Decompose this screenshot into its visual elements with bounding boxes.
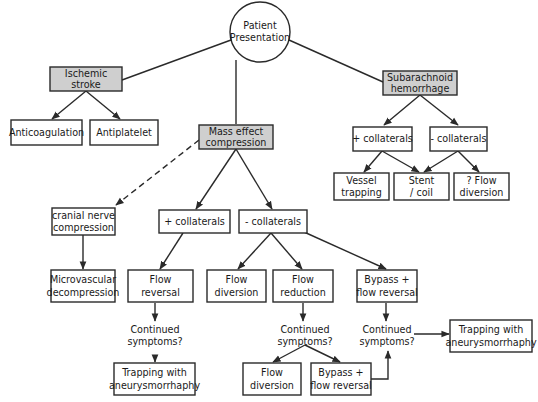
node-label: symptoms? — [359, 336, 414, 347]
node-label: Mass effect — [209, 126, 264, 137]
edge-massminus-bypass — [304, 232, 386, 269]
node-label: + collaterals — [164, 216, 225, 227]
node-microvascular-decompression: Microvascular decompression — [47, 270, 120, 302]
node-label: Ischemic — [65, 68, 107, 79]
node-subarachnoid-hemorrhage: Subarachnoid hemorrhage — [383, 71, 457, 95]
treatment-flowchart: Patient Presentation Ischemic stroke Ant… — [0, 0, 538, 402]
node-label: compression — [206, 137, 267, 148]
node-mass-effect-compression: Mass effect compression — [199, 125, 273, 149]
edge-massplus-flowrev — [160, 233, 183, 269]
edge-mass-minus — [236, 149, 272, 209]
node-label: + collaterals — [352, 133, 413, 144]
node-label: Subarachnoid — [387, 72, 453, 83]
node-label: - collaterals — [245, 216, 301, 227]
node-bypass-flow-reversal-bottom: Bypass + flow reversal — [310, 363, 372, 395]
node-label: / coil — [410, 187, 433, 198]
edge-sahplus-stent — [382, 151, 419, 172]
node-label: aneurysmorrhaphy — [109, 380, 200, 391]
node-bypass-flow-reversal: Bypass + flow reversal — [356, 270, 418, 302]
edge-root-ischemic — [122, 40, 231, 80]
node-label: Vessel — [346, 175, 376, 186]
decision-continued-symptoms-middle: Continued symptoms? — [277, 324, 332, 347]
node-label: diversion — [250, 380, 294, 391]
node-patient-presentation: Patient Presentation — [230, 2, 290, 62]
node-label: Microvascular — [50, 274, 116, 285]
edge-sahminus-stent — [424, 151, 458, 172]
node-label: flow reversal — [310, 380, 372, 391]
node-label: decompression — [47, 287, 120, 298]
edge-bypassbot-contright — [371, 351, 388, 379]
node-label: Bypass + — [318, 367, 363, 378]
node-question-flow-diversion: ? Flow diversion — [454, 173, 509, 200]
node-cranial-nerve-compression: cranial nerve compression — [52, 208, 115, 235]
node-trapping-aneurysmorrhaphy-right: Trapping with aneurysmorrhaphy — [445, 320, 536, 352]
node-label: Flow — [261, 367, 283, 378]
node-flow-diversion-bottom: Flow diversion — [243, 363, 301, 395]
node-flow-reversal: Flow reversal — [128, 270, 193, 302]
node-label: ? Flow — [466, 175, 496, 186]
edge-contmid-flowdiv — [273, 345, 305, 362]
node-sah-plus-collaterals: + collaterals — [352, 127, 413, 151]
edge-massminus-flowred — [271, 233, 302, 269]
edge-mass-cranial — [116, 140, 199, 205]
node-label: diversion — [460, 187, 504, 198]
node-flow-diversion: Flow diversion — [207, 270, 266, 302]
node-stent-coil: Stent / coil — [394, 173, 449, 200]
node-label: diversion — [215, 287, 259, 298]
node-label: Flow — [150, 274, 172, 285]
node-label: - collaterals — [430, 133, 486, 144]
edge-ischemic-anticoag — [52, 91, 86, 119]
edge-mass-plus — [196, 149, 236, 209]
node-vessel-trapping: Vessel trapping — [334, 173, 389, 200]
node-label: Continued — [362, 324, 411, 335]
node-label: cranial nerve — [52, 210, 115, 221]
node-label: hemorrhage — [391, 83, 450, 94]
node-ischemic-stroke: Ischemic stroke — [50, 67, 122, 91]
edge-sah-plus — [384, 95, 420, 125]
node-trapping-aneurysmorrhaphy-left: Trapping with aneurysmorrhaphy — [109, 363, 200, 395]
edge-sah-minus — [420, 95, 458, 125]
node-mass-minus-collaterals: - collaterals — [239, 210, 307, 233]
node-label: flow reversal — [356, 287, 418, 298]
node-label: Trapping with — [121, 367, 187, 378]
node-label: Bypass + — [364, 274, 409, 285]
node-label: aneurysmorrhaphy — [445, 337, 536, 348]
node-label: compression — [53, 222, 114, 233]
node-anticoagulation: Anticoagulation — [9, 120, 84, 145]
node-label: Patient — [243, 20, 277, 31]
node-label: Flow — [226, 274, 248, 285]
node-label: Stent — [409, 175, 435, 186]
node-label: Continued — [280, 324, 329, 335]
node-label: stroke — [71, 79, 101, 90]
node-mass-plus-collaterals: + collaterals — [159, 210, 230, 233]
node-label: Trapping with — [458, 324, 524, 335]
node-label: Flow — [292, 274, 314, 285]
edge-massminus-flowdiv — [238, 233, 271, 269]
node-label: Antiplatelet — [96, 127, 152, 138]
node-label: Anticoagulation — [9, 127, 84, 138]
node-label: Continued — [130, 324, 179, 335]
edge-contmid-bypass — [305, 345, 340, 362]
node-label: reduction — [280, 287, 325, 298]
node-sah-minus-collaterals: - collaterals — [430, 127, 487, 151]
edge-ischemic-antiplatelet — [86, 91, 120, 119]
decision-continued-symptoms-right: Continued symptoms? — [359, 324, 414, 347]
edge-root-sah — [289, 40, 383, 82]
node-flow-reduction: Flow reduction — [273, 270, 333, 302]
edge-sahplus-vessel — [364, 151, 382, 172]
decision-continued-symptoms-left: Continued symptoms? — [127, 324, 182, 347]
edge-sahminus-qflow — [458, 151, 479, 172]
node-label: symptoms? — [127, 336, 182, 347]
node-antiplatelet: Antiplatelet — [90, 120, 158, 145]
node-label: Presentation — [230, 32, 290, 43]
node-label: trapping — [341, 187, 382, 198]
node-label: symptoms? — [277, 336, 332, 347]
node-label: reversal — [141, 287, 180, 298]
